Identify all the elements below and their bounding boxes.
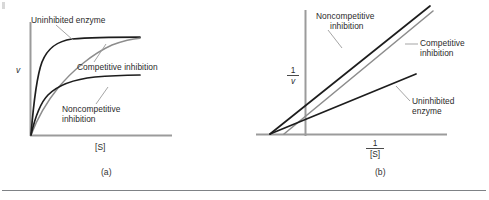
- panel-b-leader-uninhibited: [396, 86, 410, 101]
- panel-a-leader-competitive: [94, 44, 106, 62]
- panel-a-label-noncompetitive-line1: Noncompetitive: [62, 104, 120, 115]
- panel-a-leader-uninhibited: [56, 25, 73, 40]
- panel-b-y-axis-numerator: 1: [287, 66, 299, 76]
- panel-b-y-axis-denominator: v: [287, 76, 299, 86]
- panel-b-label-uninhibited-line1: Uninhibited: [412, 96, 454, 107]
- panel-b-x-axis-numerator: 1: [366, 139, 384, 149]
- panel-b-label-uninhibited-line2: enzyme: [412, 106, 442, 117]
- enzyme-inhibition-figure: v [S] Uninhibited enzyme Competitive inh…: [0, 0, 489, 200]
- panel-a-leader-noncompetitive: [96, 87, 108, 104]
- panel-a-label-noncompetitive-line2: inhibition: [62, 114, 96, 125]
- panel-b-label-noncompetitive-line1: Noncompetitive: [316, 11, 374, 22]
- panel-b-label-competitive-line2: inhibition: [420, 48, 454, 59]
- panel-a-label-competitive: Competitive inhibition: [77, 62, 158, 73]
- panel-b-label-competitive-line1: Competitive: [420, 38, 465, 49]
- panel-a-michaelis-menten: v [S] Uninhibited enzyme Competitive inh…: [0, 0, 245, 200]
- panel-a-y-axis-label: v: [16, 65, 20, 76]
- panel-b-leader-noncompetitive: [328, 30, 342, 48]
- panel-a-label-uninhibited: Uninhibited enzyme: [31, 15, 105, 26]
- panel-b-caption: (b): [375, 167, 386, 177]
- panel-b-y-axis-label: 1 v: [287, 66, 299, 86]
- panel-a-plot-area: [0, 0, 245, 200]
- bottom-divider: [2, 190, 486, 191]
- panel-b-x-axis-denominator: [S]: [366, 149, 384, 159]
- panel-b-label-noncompetitive-line2: inhibition: [330, 21, 364, 32]
- panel-b-x-axis-label: 1 [S]: [366, 139, 384, 159]
- panel-a-x-axis-label: [S]: [95, 142, 105, 153]
- panel-a-caption: (a): [101, 167, 112, 177]
- panel-b-lineweaver-burk: 1 v 1 [S] Noncompetitive inhibition Comp…: [244, 0, 489, 200]
